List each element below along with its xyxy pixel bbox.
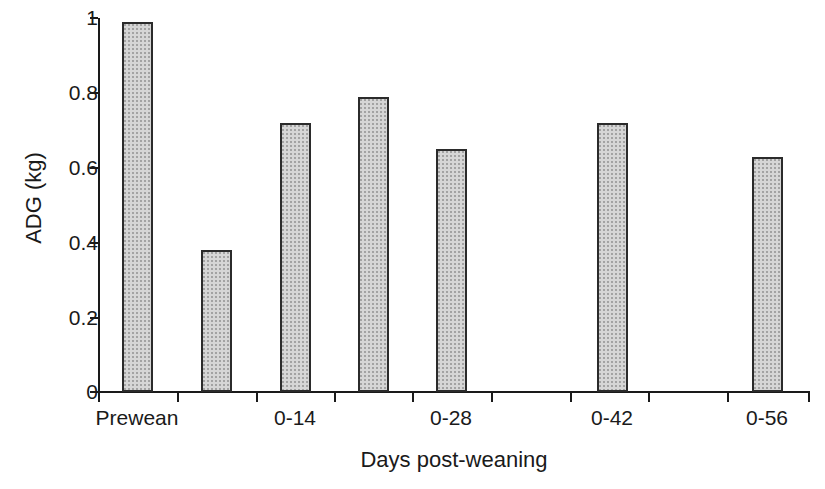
bar-0-42 <box>597 123 628 392</box>
bar-0-28 <box>436 149 467 392</box>
bar-prewean <box>122 22 153 392</box>
bar-2 <box>201 250 232 392</box>
x-tick-mark <box>727 393 729 402</box>
x-tick-label-prewean: Prewean <box>96 405 179 430</box>
y-axis-line <box>98 18 100 393</box>
bar-chart-figure: 1 0.8 0.6 0.4 0.2 0 <box>0 0 825 489</box>
x-tick-label-0-56: 0-56 <box>746 405 788 430</box>
plot-area: 1 0.8 0.6 0.4 0.2 0 <box>0 0 825 489</box>
x-tick-mark <box>491 393 493 402</box>
x-tick-mark <box>334 393 336 402</box>
x-tick-mark <box>256 393 258 402</box>
x-tick-mark <box>570 393 572 402</box>
y-tick-label: 0.2 <box>36 307 98 328</box>
x-tick-mark <box>177 393 179 402</box>
y-axis-title: ADG (kg) <box>23 98 45 298</box>
x-axis-title: Days post-weaning <box>98 448 810 472</box>
y-tick-label: 0.8 <box>36 82 98 103</box>
bar-4 <box>358 97 389 392</box>
x-tick-mark <box>98 393 100 402</box>
y-tick-0.4: 0.4 <box>0 242 98 244</box>
y-tick-label: 0 <box>36 381 98 402</box>
bar-0-56 <box>752 157 783 392</box>
x-tick-label-0-28: 0-28 <box>430 405 472 430</box>
x-tick-label-0-42: 0-42 <box>591 405 633 430</box>
x-tick-mark <box>648 393 650 402</box>
x-tick-label-0-14: 0-14 <box>274 405 316 430</box>
y-tick-label: 1 <box>36 7 98 28</box>
y-tick-1: 1 <box>0 17 98 19</box>
x-tick-mark <box>412 393 414 402</box>
x-tick-mark <box>808 393 810 402</box>
bar-0-14 <box>280 123 311 392</box>
y-tick-0.2: 0.2 <box>0 317 98 319</box>
y-tick-0: 0 <box>0 391 98 393</box>
y-tick-0.8: 0.8 <box>0 92 98 94</box>
y-tick-0.6: 0.6 <box>0 167 98 169</box>
